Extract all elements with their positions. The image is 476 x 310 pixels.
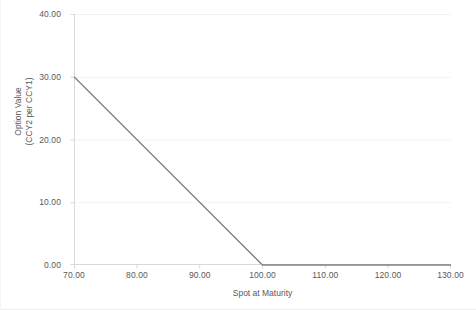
plot-svg [74,14,451,265]
y-tick-label-30: 30.00 [39,72,61,82]
x-tick-label-120: 120.00 [375,270,402,280]
x-tick-label-70: 70.00 [63,270,85,280]
x-axis-title: Spot at Maturity [74,288,451,298]
y-axis-ticks [71,15,75,265]
y-axis-title: Option Value (CCY2 per CCY1) [13,41,36,181]
plot-area [74,14,451,265]
x-tick-label-130: 130.00 [437,270,464,280]
gridlines-horizontal [74,15,451,203]
y-tick-label-20: 20.00 [39,135,61,145]
chart-container: 40.00 30.00 20.00 10.00 0.00 Option Valu… [0,0,476,310]
y-axis-title-line-1: Option Value [13,41,24,181]
x-tick-label-100: 100.00 [249,270,276,280]
y-tick-label-0: 0.00 [44,260,61,270]
x-tick-label-80: 80.00 [126,270,148,280]
x-tick-label-110: 110.00 [312,270,338,280]
y-axis-title-line-2: (CCY2 per CCY1) [24,41,35,181]
x-axis-tick-labels: 70.00 80.00 90.00 100.00 110.00 120.00 1… [1,270,476,286]
y-tick-label-10: 10.00 [39,197,61,207]
y-tick-label-40: 40.00 [39,9,61,19]
x-tick-label-90: 90.00 [189,270,211,280]
data-series-option-value [74,77,451,265]
